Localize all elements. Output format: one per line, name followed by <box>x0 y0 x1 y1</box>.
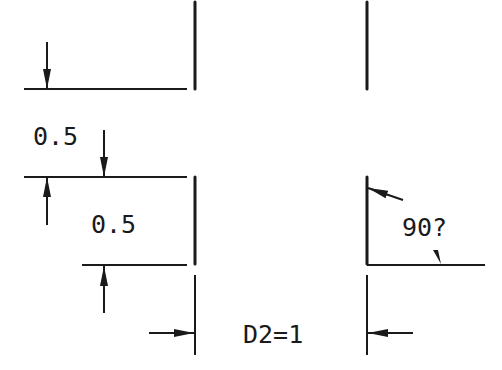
angle-arrow-horizontal-icon <box>433 250 441 264</box>
angle-label: 90? <box>402 213 447 242</box>
distance-label: D2=1 <box>243 320 303 349</box>
profile-lines <box>195 2 367 264</box>
technical-drawing: 0.5 0.5 D2=1 90? <box>0 0 502 370</box>
angle-arrow-vertical-icon <box>368 188 403 200</box>
dimension-arrows <box>47 42 413 333</box>
offset-label-bottom: 0.5 <box>91 210 136 239</box>
offset-label-top: 0.5 <box>33 122 78 151</box>
